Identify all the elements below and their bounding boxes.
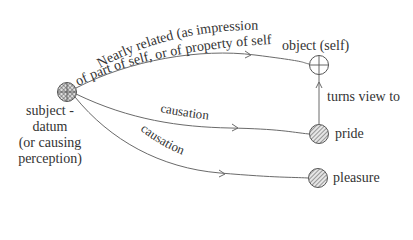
node-label-subject: subject - datum (or causing perception) bbox=[14, 103, 86, 167]
subject-label-line: datum bbox=[14, 119, 86, 135]
node-object bbox=[310, 56, 329, 75]
edge-label-turns-view-to: turns view to bbox=[327, 89, 400, 105]
node-subject bbox=[58, 83, 77, 102]
subject-label-line: (or causing bbox=[14, 135, 86, 151]
arrowhead-icon bbox=[232, 124, 238, 131]
node-label-pleasure: pleasure bbox=[333, 170, 380, 186]
subject-label-line: subject - bbox=[14, 103, 86, 119]
subject-label-line: perception) bbox=[14, 151, 86, 167]
node-pride bbox=[310, 125, 329, 144]
node-label-pride: pride bbox=[335, 126, 364, 142]
edge-label-causation-pleasure: causation bbox=[138, 121, 187, 158]
node-label-object: object (self) bbox=[282, 38, 349, 54]
edge-label-causation-pride: causation bbox=[159, 100, 210, 122]
node-pleasure bbox=[309, 169, 328, 188]
